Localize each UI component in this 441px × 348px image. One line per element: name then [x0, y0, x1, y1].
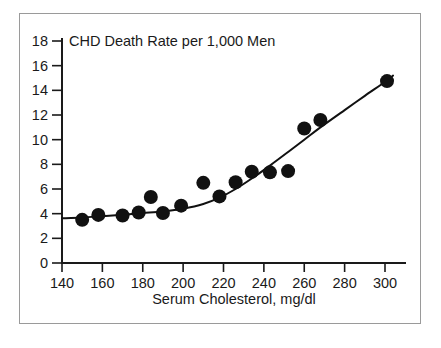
data-point: [245, 165, 259, 179]
x-tick-label-180: 180: [131, 275, 155, 291]
x-tick-label-140: 140: [50, 275, 74, 291]
data-point: [116, 209, 130, 223]
data-point: [75, 213, 89, 227]
plot-area: [62, 74, 394, 227]
figure-root: CHD Death Rate per 1,000 Men 02468101214…: [0, 0, 441, 348]
data-point: [313, 113, 327, 127]
x-tick-label-200: 200: [171, 275, 195, 291]
y-tick-label-6: 6: [40, 181, 48, 197]
chart-title: CHD Death Rate per 1,000 Men: [69, 33, 275, 49]
data-point: [229, 175, 243, 189]
data-point: [263, 165, 277, 179]
data-point: [196, 176, 210, 190]
data-point: [156, 206, 170, 220]
x-axis-title: Serum Cholesterol, mg/dl: [152, 291, 316, 307]
y-axis-ticks: [52, 41, 62, 263]
data-point: [144, 190, 158, 204]
data-point: [132, 205, 146, 219]
y-axis-group: 024681012141618: [32, 33, 62, 271]
data-point: [380, 74, 394, 88]
chd-death-rate-scatter-chart: CHD Death Rate per 1,000 Men 02468101214…: [0, 0, 441, 348]
x-axis-tick-labels: 140160180200220240260280300: [50, 275, 397, 291]
x-axis-group: 140160180200220240260280300: [50, 263, 406, 291]
data-point: [281, 164, 295, 178]
x-tick-label-220: 220: [211, 275, 235, 291]
y-tick-label-12: 12: [32, 107, 48, 123]
data-point: [91, 208, 105, 222]
data-point-markers: [75, 74, 394, 227]
y-tick-label-8: 8: [40, 156, 48, 172]
data-point: [297, 122, 311, 136]
chart-title-group: CHD Death Rate per 1,000 Men: [69, 33, 275, 49]
x-tick-label-240: 240: [252, 275, 276, 291]
x-tick-label-160: 160: [90, 275, 114, 291]
y-tick-label-0: 0: [40, 255, 48, 271]
y-tick-label-16: 16: [32, 58, 48, 74]
y-tick-label-10: 10: [32, 132, 48, 148]
y-tick-label-14: 14: [32, 82, 48, 98]
data-point: [212, 189, 226, 203]
fitted-trend-line: [62, 76, 393, 219]
x-axis-ticks: [62, 263, 385, 272]
y-tick-label-2: 2: [40, 230, 48, 246]
y-axis-tick-labels: 024681012141618: [32, 33, 48, 271]
y-tick-label-4: 4: [40, 206, 48, 222]
y-tick-label-18: 18: [32, 33, 48, 49]
x-tick-label-260: 260: [292, 275, 316, 291]
data-point: [174, 199, 188, 213]
x-tick-label-300: 300: [373, 275, 397, 291]
x-axis-title-group: Serum Cholesterol, mg/dl: [152, 291, 316, 307]
x-tick-label-280: 280: [333, 275, 357, 291]
